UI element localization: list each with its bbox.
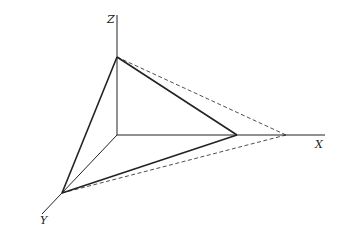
- x-axis-label: X: [314, 138, 324, 151]
- triangle-edge-y-x: [62, 135, 237, 193]
- y-axis-label: Y: [40, 214, 49, 227]
- diagram-canvas: Z X Y: [0, 0, 337, 229]
- z-axis-label: Z: [106, 13, 115, 26]
- triangle-edge-z-y: [62, 57, 117, 193]
- triangle-edge-z-x: [117, 57, 237, 135]
- y-axis: [42, 135, 117, 214]
- dashed-edge-z-x: [117, 57, 286, 135]
- dashed-edge-y-x: [62, 135, 286, 193]
